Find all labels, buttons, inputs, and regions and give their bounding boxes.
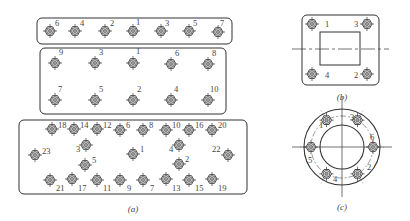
bolt-sequence-number: 2 bbox=[110, 18, 114, 28]
bolt-sequence-number: 7 bbox=[150, 183, 154, 193]
bolt: 5 bbox=[304, 140, 318, 165]
bolt: 4 bbox=[169, 138, 186, 154]
bolt-sequence-diagram: 6421357 93168752410 18141268101620342312… bbox=[0, 0, 410, 221]
bolt: 3 bbox=[354, 17, 374, 31]
bolt: 8 bbox=[136, 120, 153, 137]
bolt: 7 bbox=[136, 173, 154, 193]
panel-a-rectangular-flanges: 6421357 93168752410 18141268101620342312… bbox=[19, 17, 247, 214]
bolt-shank-icon bbox=[210, 177, 214, 181]
bolt-sequence-number: 12 bbox=[103, 120, 112, 130]
bolt-sequence-number: 2 bbox=[137, 84, 141, 94]
bolt-sequence-number: 5 bbox=[99, 84, 103, 94]
bolt: 2 bbox=[98, 18, 114, 38]
bolt-sequence-number: 18 bbox=[58, 120, 67, 130]
bolt-shank-icon bbox=[48, 178, 52, 182]
bolt-sequence-number: 17 bbox=[78, 183, 87, 193]
bolt-sequence-number: 5 bbox=[308, 155, 312, 165]
bolt: 11 bbox=[90, 173, 111, 193]
bolt-shank-icon bbox=[141, 178, 145, 182]
bolt-sequence-number: 3 bbox=[354, 19, 358, 29]
bolt-shank-icon bbox=[310, 22, 314, 26]
bolt-shank-icon bbox=[84, 143, 88, 147]
bolt: 9 bbox=[113, 173, 131, 193]
bolt-sequence-number: 13 bbox=[172, 183, 181, 193]
bolt-sequence-number: 1 bbox=[136, 17, 140, 27]
bolt-shank-icon bbox=[187, 178, 191, 182]
bolt-sequence-number: 9 bbox=[59, 47, 63, 57]
bolt-shank-icon bbox=[50, 127, 54, 131]
bolt: 15 bbox=[182, 173, 204, 193]
bolt: 5 bbox=[88, 84, 103, 107]
bolt: 2 bbox=[126, 84, 141, 107]
bolt-sequence-number: 3 bbox=[165, 18, 169, 28]
bolt: 16 bbox=[182, 120, 204, 137]
bolt-sequence-number: 6 bbox=[370, 132, 374, 142]
bolt-sequence-number: 4 bbox=[169, 144, 174, 154]
bolt-sequence-number: 9 bbox=[127, 183, 131, 193]
bolt-sequence-number: 7 bbox=[220, 18, 224, 28]
bolt-shank-icon bbox=[131, 152, 135, 156]
panel-c-circular-flange: 136245 (c) bbox=[292, 97, 392, 212]
bolt: 7 bbox=[48, 84, 62, 107]
bolt-sequence-number: 4 bbox=[325, 70, 330, 80]
bolt-sequence-number: 5 bbox=[193, 18, 197, 28]
bolt: 4 bbox=[68, 18, 85, 38]
bolt: 4 bbox=[320, 167, 339, 184]
bolt: 3 bbox=[76, 138, 93, 154]
bolt-shank-icon bbox=[226, 153, 230, 157]
bolt-shank-icon bbox=[95, 127, 99, 131]
caption-a: (a) bbox=[128, 204, 139, 214]
bolt-sequence-number: 20 bbox=[218, 120, 227, 130]
bolt-shank-icon bbox=[103, 29, 107, 33]
bolt: 6 bbox=[113, 120, 130, 137]
bolt-sequence-number: 11 bbox=[103, 183, 111, 193]
bolt-shank-icon bbox=[131, 61, 135, 65]
bolt-shank-icon bbox=[187, 128, 191, 132]
bolt-shank-icon bbox=[309, 145, 313, 149]
bolt-sequence-number: 14 bbox=[80, 120, 89, 130]
bolt-shank-icon bbox=[325, 118, 329, 122]
bolt-sequence-number: 1 bbox=[325, 19, 329, 29]
bolt-sequence-number: 8 bbox=[212, 48, 216, 58]
bolt-shank-icon bbox=[169, 98, 173, 102]
bolt: 2 bbox=[172, 154, 189, 171]
bolt-shank-icon bbox=[95, 178, 99, 182]
bolt: 4 bbox=[305, 67, 330, 81]
square-opening bbox=[320, 32, 360, 65]
bolt-sequence-number: 4 bbox=[333, 174, 338, 184]
caption-c: (c) bbox=[337, 202, 347, 212]
bolt-shank-icon bbox=[365, 22, 369, 26]
bolt-sequence-number: 6 bbox=[55, 18, 59, 28]
bolt: 20 bbox=[205, 120, 227, 137]
bolt-sequence-number: 3 bbox=[99, 47, 103, 57]
bolt-sequence-number: 1 bbox=[136, 46, 140, 56]
bolt-sequence-number: 8 bbox=[149, 120, 153, 130]
bolt: 6 bbox=[43, 18, 59, 38]
bolt: 12 bbox=[90, 120, 112, 136]
bolt: 17 bbox=[65, 172, 87, 193]
bolt-shank-icon bbox=[73, 29, 77, 33]
bolt-sequence-number: 3 bbox=[76, 144, 80, 154]
bolt-sequence-number: 1 bbox=[319, 120, 323, 130]
panel-b-square-flange: 1342 (b) bbox=[292, 15, 389, 102]
bolt-sequence-number: 4 bbox=[174, 84, 179, 94]
bolt-shank-icon bbox=[72, 127, 76, 131]
bolt-shank-icon bbox=[365, 72, 369, 76]
bolt-shank-icon bbox=[177, 162, 181, 166]
bolt-shank-icon bbox=[325, 172, 329, 176]
bolt: 13 bbox=[159, 172, 181, 193]
bolt: 9 bbox=[48, 47, 63, 70]
bolt: 14 bbox=[67, 120, 89, 136]
bolt: 3 bbox=[88, 47, 103, 70]
bolt: 19 bbox=[205, 172, 227, 193]
bolt: 6 bbox=[164, 48, 179, 71]
bolt: 3 bbox=[154, 18, 169, 38]
bolt: 21 bbox=[43, 173, 65, 193]
bolt-sequence-number: 22 bbox=[212, 144, 221, 154]
bolt-shank-icon bbox=[206, 62, 210, 66]
bolt: 1 bbox=[126, 17, 140, 38]
bolt-shank-icon bbox=[48, 29, 52, 33]
top-flange-bolts: 6421357 bbox=[43, 17, 225, 39]
bolt-shank-icon bbox=[53, 98, 57, 102]
bolt: 23 bbox=[28, 146, 51, 162]
